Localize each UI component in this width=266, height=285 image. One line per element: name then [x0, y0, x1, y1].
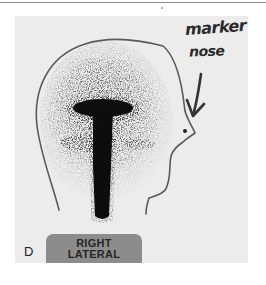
scan-panel: marker nose D RIGHT LATERAL	[15, 16, 248, 263]
top-divider	[0, 2, 266, 3]
view-badge: RIGHT LATERAL	[46, 234, 142, 263]
view-badge-line2: LATERAL	[68, 249, 121, 260]
panel-label: D	[24, 244, 33, 259]
arrow-down-icon	[187, 74, 204, 116]
view-badge-line1: RIGHT	[76, 238, 112, 249]
artifact-speck	[161, 7, 163, 9]
annotation-nose-text: nose	[189, 42, 225, 59]
nose-marker-dot	[183, 129, 187, 133]
